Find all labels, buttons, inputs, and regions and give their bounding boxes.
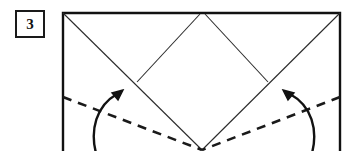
- paper-sheet-outline: [63, 13, 340, 151]
- origami-step-figure: 3: [0, 0, 352, 151]
- fold-diagram-canvas: [0, 0, 352, 151]
